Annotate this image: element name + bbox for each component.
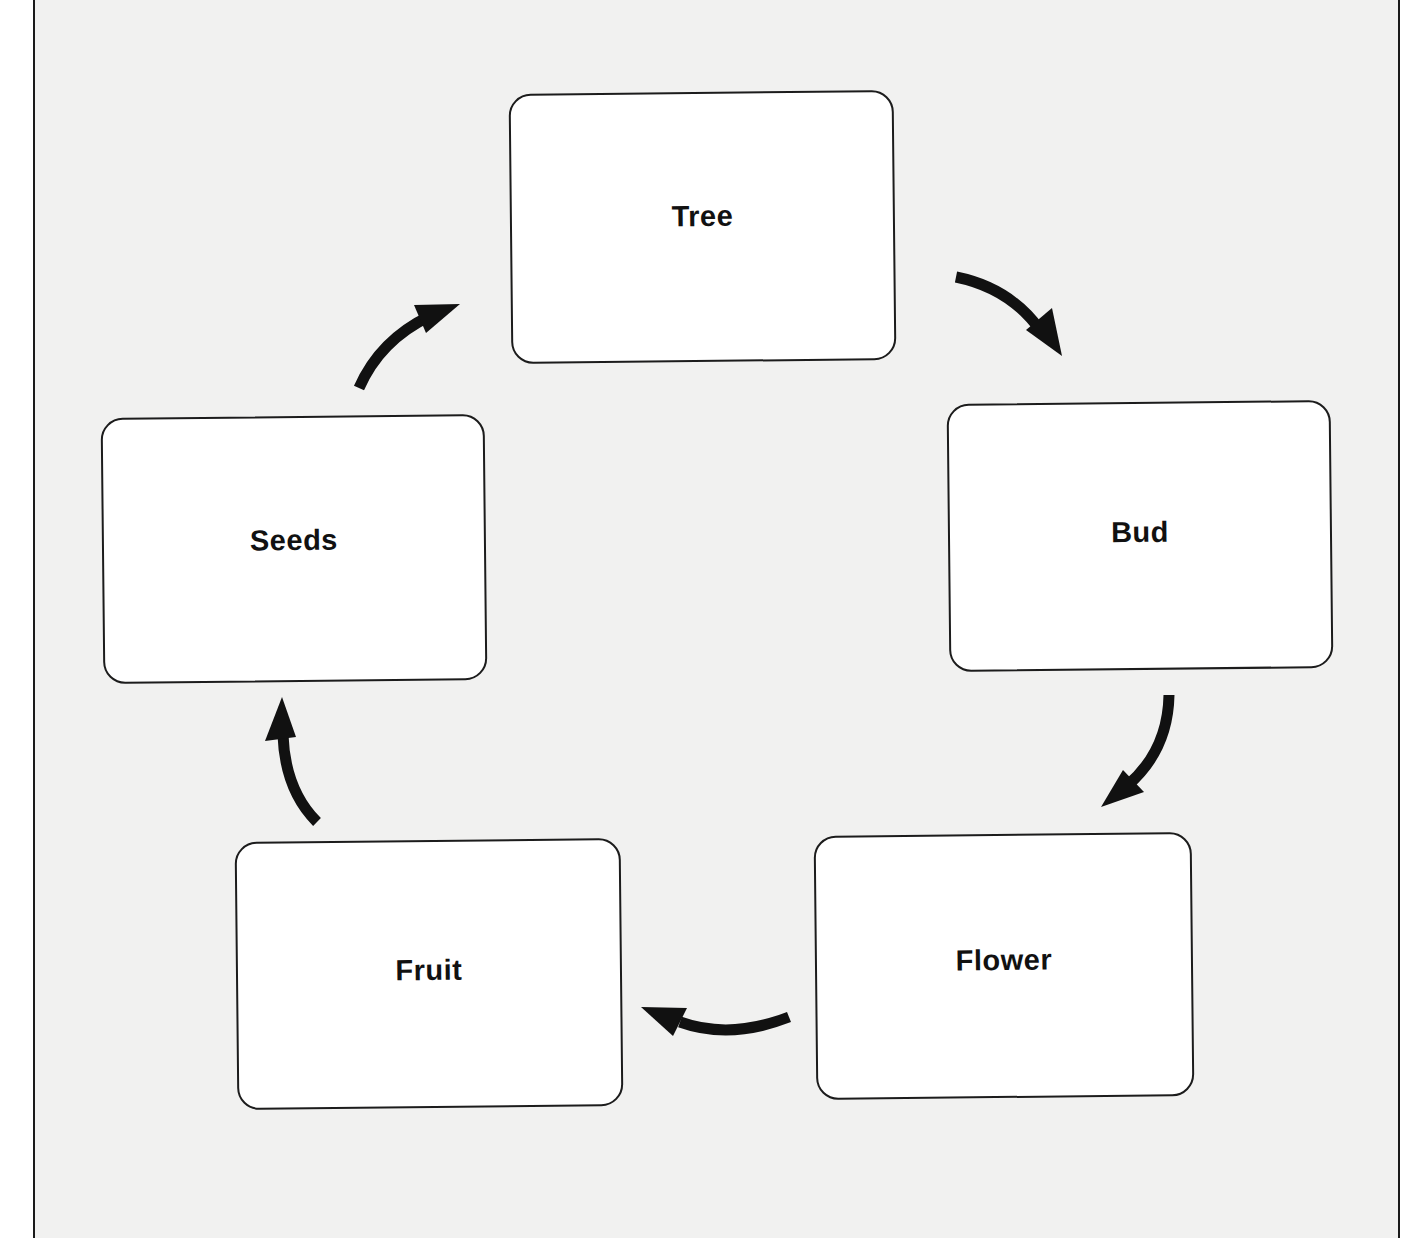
stage-label-bud: Bud: [950, 514, 1330, 551]
stage-label-fruit: Fruit: [238, 952, 620, 989]
stage-box-tree: Tree: [509, 90, 897, 364]
stage-box-bud: Bud: [947, 400, 1334, 672]
stage-box-fruit: Fruit: [235, 838, 624, 1110]
stage-box-flower: Flower: [814, 832, 1195, 1100]
stage-box-seeds: Seeds: [101, 414, 488, 684]
stage-label-seeds: Seeds: [104, 522, 484, 559]
stage-label-flower: Flower: [817, 942, 1191, 979]
stage-label-tree: Tree: [512, 198, 893, 235]
